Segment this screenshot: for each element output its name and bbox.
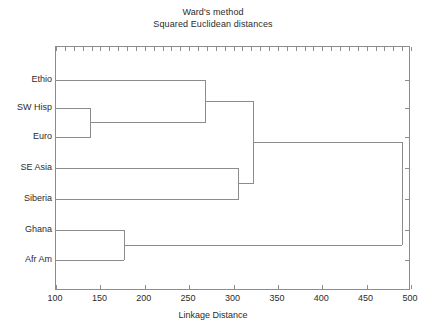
x-tick-top (331, 47, 332, 51)
x-tick-top (225, 47, 226, 51)
x-tick-top (198, 47, 199, 51)
x-tick-top (411, 47, 412, 51)
leaf-label-siberia: Siberia (24, 193, 52, 203)
x-tick-top (171, 47, 172, 51)
y-tick-right (405, 108, 409, 109)
leaf-label-sw-hisp: SW Hisp (17, 102, 52, 112)
x-tick-bottom (189, 285, 190, 289)
leaf-label-se-asia: SE Asia (20, 162, 52, 172)
x-tick-bottom (145, 285, 146, 289)
xtick-label-400: 400 (314, 293, 329, 303)
x-tick-top (216, 47, 217, 51)
leaf-label-ghana: Ghana (25, 224, 52, 234)
x-tick-top (100, 47, 101, 51)
x-tick-top (92, 47, 93, 51)
x-tick-top (384, 47, 385, 51)
x-tick-top (136, 47, 137, 51)
xtick-label-350: 350 (269, 293, 284, 303)
y-tick-right (405, 137, 409, 138)
x-tick-top (296, 47, 297, 51)
x-tick-top (287, 47, 288, 51)
dendrogram-drawing (56, 47, 411, 291)
x-tick-top (251, 47, 252, 51)
x-tick-top (163, 47, 164, 51)
x-tick-top (145, 47, 146, 51)
x-tick-top (83, 47, 84, 51)
x-tick-bottom (234, 285, 235, 289)
x-tick-top (376, 47, 377, 51)
x-tick-top (358, 47, 359, 51)
xtick-label-250: 250 (181, 293, 196, 303)
x-tick-top (322, 47, 323, 51)
x-tick-top (207, 47, 208, 51)
x-tick-bottom (322, 285, 323, 289)
y-tick-right (405, 260, 409, 261)
x-tick-top (393, 47, 394, 51)
leaf-label-ethio: Ethio (31, 74, 52, 84)
chart-title-line1: Ward's method (0, 6, 426, 18)
leaf-label-afr-am: Afr Am (25, 254, 52, 264)
x-tick-top (65, 47, 66, 51)
x-tick-bottom (278, 285, 279, 289)
chart-title-line2: Squared Euclidean distances (0, 18, 426, 30)
x-tick-top (305, 47, 306, 51)
chart-title: Ward's method Squared Euclidean distance… (0, 6, 426, 30)
x-tick-top (234, 47, 235, 51)
plot-area (55, 46, 410, 290)
x-axis-title: Linkage Distance (0, 310, 426, 320)
x-tick-bottom (411, 285, 412, 289)
xtick-label-500: 500 (402, 293, 417, 303)
x-tick-top (109, 47, 110, 51)
xtick-label-450: 450 (358, 293, 373, 303)
x-tick-top (278, 47, 279, 51)
x-tick-top (154, 47, 155, 51)
x-tick-top (189, 47, 190, 51)
dendrogram-figure: Ward's method Squared Euclidean distance… (0, 0, 426, 332)
x-tick-bottom (367, 285, 368, 289)
x-tick-top (313, 47, 314, 51)
x-tick-top (402, 47, 403, 51)
x-tick-top (269, 47, 270, 51)
x-tick-bottom (100, 285, 101, 289)
x-tick-top (340, 47, 341, 51)
x-tick-top (349, 47, 350, 51)
x-tick-top (367, 47, 368, 51)
x-tick-top (260, 47, 261, 51)
xtick-label-150: 150 (92, 293, 107, 303)
xtick-label-100: 100 (47, 293, 62, 303)
y-tick-right (405, 230, 409, 231)
leaf-label-euro: Euro (33, 131, 52, 141)
y-tick-right (405, 80, 409, 81)
x-tick-top (242, 47, 243, 51)
y-tick-right (405, 168, 409, 169)
x-tick-top (56, 47, 57, 51)
x-tick-top (118, 47, 119, 51)
xtick-label-200: 200 (136, 293, 151, 303)
y-tick-right (405, 199, 409, 200)
x-tick-bottom (56, 285, 57, 289)
x-tick-top (127, 47, 128, 51)
x-tick-top (74, 47, 75, 51)
xtick-label-300: 300 (225, 293, 240, 303)
x-tick-top (180, 47, 181, 51)
